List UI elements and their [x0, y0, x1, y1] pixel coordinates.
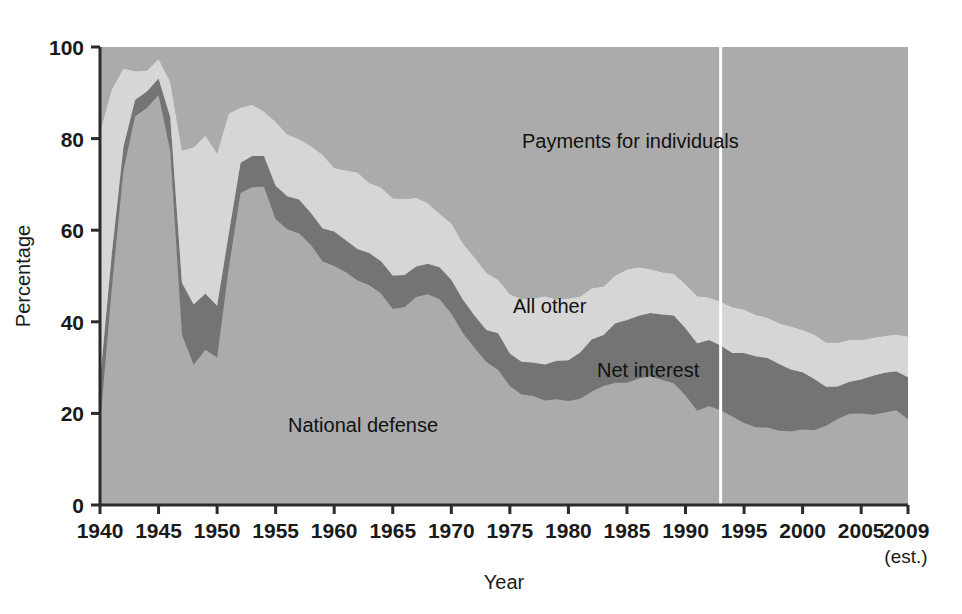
- area-series-group: [100, 47, 908, 505]
- series-label-net-interest: Net interest: [597, 359, 700, 381]
- x-tick-label: 1965: [369, 519, 416, 542]
- x-tick-label: 1940: [77, 519, 124, 542]
- x-tick-label: 1945: [135, 519, 182, 542]
- x-tick-label: 2000: [779, 519, 826, 542]
- y-tick-label: 80: [61, 128, 84, 151]
- x-tick-label: 1995: [721, 519, 768, 542]
- x-tick-label: 2005: [838, 519, 885, 542]
- y-tick-label: 60: [61, 219, 84, 242]
- series-label-national-defense: National defense: [288, 414, 438, 436]
- stacked-area-chart: 1940194519501955196019651970197519801985…: [0, 0, 962, 614]
- x-tick-label: 1970: [428, 519, 475, 542]
- y-tick-label: 40: [61, 311, 84, 334]
- y-axis-title: Percentage: [12, 225, 34, 327]
- y-tick-label: 100: [49, 36, 84, 59]
- x-tick-label: 1950: [194, 519, 241, 542]
- x-tick-label: 1980: [545, 519, 592, 542]
- x-tick-label: 1985: [604, 519, 651, 542]
- x-tick-label: 1960: [311, 519, 358, 542]
- x-tick-label: 1990: [662, 519, 709, 542]
- x-tick-label: 2009: [883, 519, 930, 542]
- x-tick-estimate-note: (est.): [884, 546, 927, 567]
- x-axis-title: Year: [484, 571, 525, 593]
- chart-container: 1940194519501955196019651970197519801985…: [0, 0, 962, 614]
- series-label-payments-for-individuals: Payments for individuals: [522, 130, 739, 152]
- y-tick-label: 20: [61, 402, 84, 425]
- series-label-all-other: All other: [513, 295, 587, 317]
- x-tick-label: 1955: [252, 519, 299, 542]
- x-tick-label: 1975: [486, 519, 533, 542]
- y-tick-label: 0: [72, 494, 84, 517]
